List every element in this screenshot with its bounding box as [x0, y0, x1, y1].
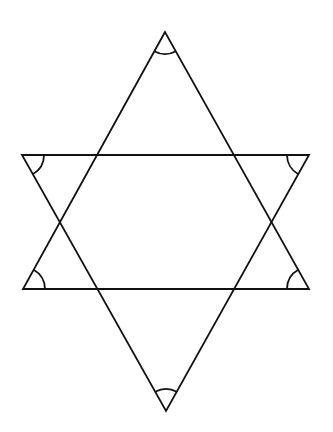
upward-triangle	[23, 32, 309, 289]
angle-arc-lower-right	[287, 270, 298, 289]
angle-arc-upper-right	[287, 155, 298, 174]
angle-arc-top	[154, 51, 175, 54]
downward-triangle	[22, 155, 309, 411]
angle-arcs	[33, 51, 298, 392]
star-diagram	[0, 0, 333, 432]
angle-arc-upper-left	[33, 155, 44, 174]
angle-arc-bottom	[155, 389, 177, 392]
angle-arc-lower-left	[34, 270, 45, 289]
